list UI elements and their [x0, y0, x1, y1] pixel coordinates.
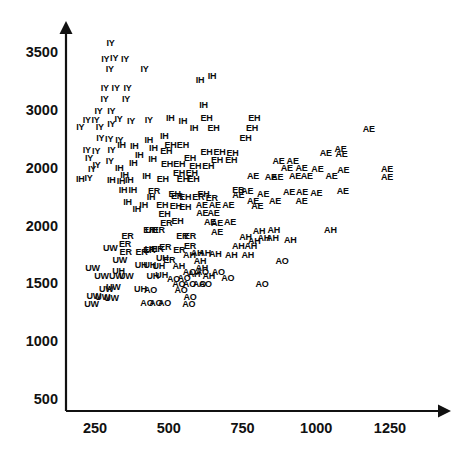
data-point-ih: IH [166, 113, 175, 122]
data-point-er: ER [192, 192, 204, 201]
data-point-iy: IY [127, 116, 135, 125]
data-point-ae: AE [224, 218, 236, 227]
data-point-eh: EH [177, 140, 189, 149]
data-point-ih: IH [107, 176, 116, 185]
data-point-ih: IH [190, 123, 199, 132]
data-point-ae: AE [271, 172, 283, 181]
data-point-er: ER [206, 193, 218, 202]
data-point-iy: IY [145, 115, 153, 124]
data-point-ah: AH [209, 250, 222, 259]
data-point-eh: EH [179, 202, 191, 211]
data-point-eh: EH [157, 175, 169, 184]
data-point-ao: AO [144, 286, 157, 295]
data-point-uh: UH [145, 226, 158, 235]
data-point-er: ER [171, 192, 183, 201]
data-point-iy: IY [106, 65, 114, 74]
data-point-uw: UW [104, 294, 119, 303]
data-point-ae: AE [269, 196, 281, 205]
data-point-ih: IH [208, 72, 217, 81]
data-point-ih: IH [133, 204, 142, 213]
data-point-ae: AE [251, 201, 263, 210]
data-point-ah: AH [241, 250, 254, 259]
data-point-ao: AO [275, 257, 288, 266]
data-point-er: ER [159, 243, 171, 252]
data-point-iy: IY [92, 146, 100, 155]
data-point-ih: IH [123, 198, 132, 207]
data-point-ah: AH [225, 250, 238, 259]
data-point-ae: AE [222, 201, 234, 210]
data-point-ae: AE [320, 148, 332, 157]
data-point-ao: AO [196, 267, 209, 276]
data-point-uw: UW [106, 283, 121, 292]
data-point-uh: UH [145, 244, 158, 253]
data-point-ih: IH [148, 154, 157, 163]
data-point-iy: IY [110, 53, 118, 62]
data-point-ih: IH [149, 144, 158, 153]
data-point-ae: AE [311, 164, 323, 173]
data-point-er: ER [148, 187, 160, 196]
data-point-ih: IH [196, 75, 205, 84]
data-point-ih: IH [117, 141, 126, 150]
data-point-uw: UW [112, 256, 127, 265]
data-point-iy: IY [84, 174, 92, 183]
data-point-uw: UW [94, 272, 109, 281]
data-point-iy: IY [112, 83, 120, 92]
data-point-iy: IY [96, 123, 104, 132]
data-point-ao: AO [158, 298, 171, 307]
data-point-ae: AE [211, 228, 223, 237]
data-point-iy: IY [107, 119, 115, 128]
data-point-ae: AE [337, 165, 349, 174]
data-point-ih: IH [179, 117, 188, 126]
data-point-iy: IY [76, 122, 84, 131]
data-point-ae: AE [301, 172, 313, 181]
data-point-ae: AE [247, 171, 259, 180]
data-point-ae: AE [337, 186, 349, 195]
data-point-uw: UW [103, 244, 118, 253]
data-point-eh: EH [239, 133, 251, 142]
data-point-iy: IY [101, 54, 109, 63]
data-point-ao: AO [221, 274, 234, 283]
data-point-iy: IY [140, 65, 148, 74]
data-point-ih: IH [119, 185, 128, 194]
plot-data-area: IYIYIYIYIYIYIYIYIYIYIYIYIYIYIYIYIYIYIYIY… [0, 0, 455, 452]
data-point-iy: IY [115, 115, 123, 124]
data-point-iy: IY [123, 83, 131, 92]
data-point-ae: AE [336, 149, 348, 158]
data-point-eh: EH [161, 160, 173, 169]
data-point-ae: AE [283, 187, 295, 196]
data-point-eh: EH [200, 113, 212, 122]
data-point-ih: IH [76, 175, 85, 184]
data-point-uw: UW [84, 300, 99, 309]
data-point-ae: AE [295, 197, 307, 206]
data-point-iy: IY [107, 38, 115, 47]
data-point-ih: IH [142, 171, 151, 180]
data-point-eh: EH [208, 124, 220, 133]
data-point-ae: AE [326, 172, 338, 181]
data-point-iy: IY [121, 54, 129, 63]
scatter-plot-figure: 3500300020002000150010005002505007501000… [0, 0, 455, 452]
data-point-ae: AE [381, 172, 393, 181]
data-point-ih: IH [199, 101, 208, 110]
data-point-ah: AH [284, 235, 297, 244]
data-point-ae: AE [211, 218, 223, 227]
data-point-ao: AO [182, 299, 195, 308]
data-point-uw: UW [119, 272, 134, 281]
data-point-ah: AH [324, 225, 337, 234]
data-point-eh: EH [202, 161, 214, 170]
data-point-ao: AO [255, 280, 268, 289]
data-point-iy: IY [105, 135, 113, 144]
data-point-ae: AE [310, 188, 322, 197]
data-point-iy: IY [100, 95, 108, 104]
data-point-ao: AO [199, 280, 212, 289]
data-point-eh: EH [225, 156, 237, 165]
data-point-ae: AE [289, 172, 301, 181]
data-point-ih: IH [128, 186, 137, 195]
data-point-iy: IY [96, 133, 104, 142]
data-point-eh: EH [248, 113, 260, 122]
data-point-iy: IY [101, 83, 109, 92]
data-point-iy: IY [122, 95, 130, 104]
data-point-iy: IY [106, 156, 114, 165]
data-point-eh: EH [187, 175, 199, 184]
data-point-er: ER [232, 185, 244, 194]
data-point-ae: AE [363, 124, 375, 133]
